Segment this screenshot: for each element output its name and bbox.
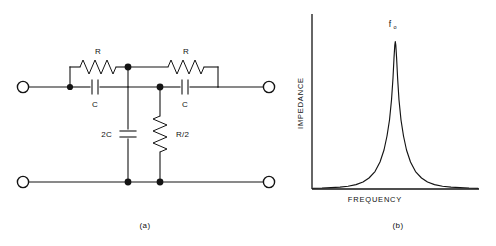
capacitor-left <box>92 80 98 94</box>
terminal-output-top[interactable] <box>263 81 274 92</box>
resistor-shunt-label: R/2 <box>176 130 190 139</box>
terminal-output-bottom[interactable] <box>263 176 274 187</box>
resonant-frequency-annotation: f o <box>389 19 397 30</box>
terminal-input-top[interactable] <box>17 81 28 92</box>
figure-canvas: C C R R 2C <box>0 0 496 246</box>
panel-a-circuit: C C R R 2C <box>17 47 274 230</box>
panel-b-plot: f o FREQUENCY IMPEDANCE (b) <box>296 14 479 230</box>
plot-x-axis-label: FREQUENCY <box>348 195 402 204</box>
capacitor-shunt <box>120 131 136 137</box>
panel-b-caption: (b) <box>393 221 404 230</box>
resonant-frequency-label: f <box>389 19 392 29</box>
capacitor-shunt-label: 2C <box>101 130 112 139</box>
resistor-left-label: R <box>95 47 101 56</box>
terminal-input-bottom[interactable] <box>17 176 28 187</box>
figure-root: C C R R 2C <box>0 0 496 246</box>
capacitor-right <box>182 80 188 94</box>
node-dot-shunt-ground <box>157 179 164 186</box>
resonant-frequency-subscript: o <box>393 24 396 30</box>
resistor-right <box>168 60 204 74</box>
node-dot-center-top <box>125 64 132 71</box>
resistor-left <box>80 60 116 74</box>
capacitor-right-label: C <box>182 100 188 109</box>
node-dot-mid-signal <box>157 84 164 91</box>
resistor-shunt <box>153 116 167 152</box>
node-dot-input-junction <box>67 84 73 90</box>
impedance-response-curve <box>313 42 478 189</box>
capacitor-left-label: C <box>92 100 98 109</box>
node-dot-center-ground <box>125 179 132 186</box>
resistor-right-label: R <box>183 47 189 56</box>
plot-y-axis-label: IMPEDANCE <box>296 77 305 129</box>
panel-a-caption: (a) <box>140 221 151 230</box>
